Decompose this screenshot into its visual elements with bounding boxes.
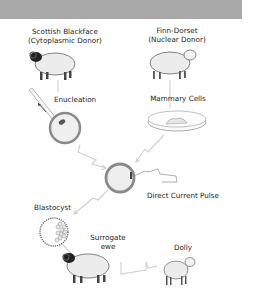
diagram-artwork — [0, 0, 254, 302]
dolly-lamb-icon — [164, 258, 195, 286]
label-enucleation: Enucleation — [50, 96, 100, 105]
scottish-blackface-sheep-icon — [30, 52, 75, 80]
label-cytoplasmic-donor: Scottish Blackface (Cytoplasmic Donor) — [20, 28, 110, 45]
arrow-fusion-to-blastocyst — [74, 190, 108, 214]
label-mammary-cells: Mammary Cells — [148, 95, 208, 104]
egg-cell-icon — [50, 113, 80, 143]
surrogate-ewe-icon — [63, 253, 109, 283]
label-dolly: Dolly — [168, 244, 198, 253]
arrow-surrogate-to-dolly — [121, 262, 157, 274]
label-cytoplasmic-donor-role: (Cytoplasmic Donor) — [20, 37, 110, 46]
electrode-icon — [134, 169, 177, 182]
label-direct-current-pulse: Direct Current Pulse — [143, 192, 223, 201]
fused-egg-icon — [106, 164, 134, 192]
arrow-dish-to-fusion — [136, 135, 164, 162]
label-blastocyst: Blastocyst — [34, 204, 78, 213]
arrow-egg-to-fusion — [78, 145, 106, 168]
label-nuclear-donor-role: (Nuclear Donor) — [137, 36, 217, 45]
label-ewe: ewe — [88, 243, 128, 252]
petri-dish-icon — [148, 111, 206, 131]
label-surrogate-ewe: Surrogate ewe — [88, 234, 128, 251]
finn-dorset-sheep-icon — [150, 50, 196, 79]
label-nuclear-donor: Finn-Dorset (Nuclear Donor) — [137, 27, 217, 44]
blastocyst-icon — [40, 218, 68, 246]
